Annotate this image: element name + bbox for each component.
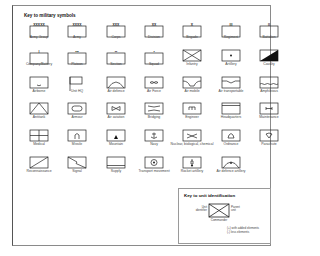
symbol-label: Parachute — [246, 143, 292, 147]
symbol-air-mobile: Air mobile — [173, 74, 211, 100]
echelon-mark: I — [39, 50, 40, 54]
symbol-transport-movement: Transport movement — [135, 154, 173, 180]
symbol-cavalry: Cavalry — [250, 47, 288, 73]
symbol-army: XXXXArmy — [58, 20, 96, 46]
symbol-label: Air defence artillery — [208, 170, 254, 174]
commander-label: Commander — [207, 219, 231, 222]
echelon-mark: II — [268, 23, 270, 27]
symbol-medical: Medical — [20, 127, 58, 153]
symbol-navy: Navy — [135, 127, 173, 153]
symbol-missile: Missile — [58, 127, 96, 153]
legend-title: Key to military symbols — [24, 13, 76, 18]
symbol-air-transportable: Air transportable — [212, 74, 250, 100]
unit-identification-symbol-icon — [179, 189, 272, 245]
symbol-engineer: Engineer — [173, 100, 211, 126]
symbol-label: Cavalry — [246, 63, 292, 67]
symbol-regiment: IIIRegiment — [212, 20, 250, 46]
symbol-label: Maintenance — [246, 116, 292, 120]
symbol-battalion: IIBattalion — [250, 20, 288, 46]
symbol-mountain: Mountain — [97, 127, 135, 153]
symbol-squad: •Squad — [135, 47, 173, 73]
symbol-amphibious: Amphibious — [250, 74, 288, 100]
symbol-section: ••Section — [97, 47, 135, 73]
symbol-label: Battalion — [246, 36, 292, 40]
symbol-airborne: Airborne — [20, 74, 58, 100]
echelon-mark: III — [230, 23, 233, 27]
symbol-company-battery: ICompany/Battery — [20, 47, 58, 73]
echelon-mark: XXX — [113, 23, 121, 27]
symbol-infantry: Infantry — [173, 47, 211, 73]
symbol-artillery: Artillery — [212, 47, 250, 73]
symbol-reconnaissance: Reconnaissance — [20, 154, 58, 180]
symbol-air-defence-artillery: Air defence artillery — [212, 154, 250, 180]
symbol-air-force: Air Force — [135, 74, 173, 100]
unit-identification-key: Key to unit identification Unit identifi… — [178, 188, 271, 244]
unit-identifier-label: Unit identifier — [193, 206, 207, 213]
symbol-ordnance: Ordnance — [212, 127, 250, 153]
symbol-signal: Signal — [58, 154, 96, 180]
symbol-air-aviation: Air aviation — [97, 100, 135, 126]
symbol-army-group: XXXXXArmy Group — [20, 20, 58, 46]
symbol-maintenance: Maintenance — [250, 100, 288, 126]
echelon-mark: XXXX — [72, 23, 82, 27]
symbol-armour: Armour — [58, 100, 96, 126]
echelon-mark: XXXXX — [33, 23, 45, 27]
symbol-headquarters: Headquarters — [212, 100, 250, 126]
symbol-brigade: XBrigade — [173, 20, 211, 46]
symbol-bridging: Bridging — [135, 100, 173, 126]
symbol-platoon: •••Platoon — [58, 47, 96, 73]
symbol-corps: XXXCorps — [97, 20, 135, 46]
symbol-nuclear-biological-chemical: Nuclear, biological, chemical — [173, 127, 211, 153]
less-elements-label: (-) less elements — [227, 231, 271, 234]
symbol-supply: Supply — [97, 154, 135, 180]
symbol-parachute: Parachute — [250, 127, 288, 153]
symbol-antitank: Antitank — [20, 100, 58, 126]
symbol-division: XXDivision — [135, 20, 173, 46]
symbol-air-defence: Air defence — [97, 74, 135, 100]
symbol-unit-hq: Unit HQ — [58, 74, 96, 100]
symbol-label: Amphibious — [246, 90, 292, 94]
echelon-mark: XX — [152, 23, 157, 27]
symbol-rocket-artillery: Rocket artillery — [173, 154, 211, 180]
parent-unit-label: Parent unit — [231, 206, 245, 213]
